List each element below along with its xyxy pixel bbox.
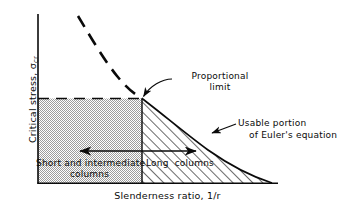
y-axis-label-subscript: cr [32,56,40,63]
x-axis-label: Slenderness ratio, 1/r [60,190,275,201]
short-columns-line-2: columns [70,169,109,179]
usable-portion-annotation: Usable portionof Euler's equation [238,118,342,141]
proportional-limit-annotation: Proportionallimit [175,71,265,93]
proportional-limit-leader [144,79,173,97]
short-intermediate-columns-label: Short and intermediatecolumns [36,158,143,180]
y-axis-label: Critical stress, σcr [27,25,40,175]
euler-curve-dashed [78,16,142,99]
usable-portion-line-1: Usable portion [238,118,306,128]
usable-portion-line-2: of Euler's equation [238,130,342,142]
usable-portion-leader [212,124,236,133]
y-axis-label-text: Critical stress, σ [27,63,38,143]
long-columns-label: Long columns [146,158,226,169]
euler-column-buckling-figure: Critical stress, σcr Slenderness ratio, … [0,0,343,208]
proportional-limit-line-2: limit [210,82,231,92]
proportional-limit-line-1: Proportional [192,71,249,81]
short-columns-line-1: Short and intermediate [36,158,145,168]
